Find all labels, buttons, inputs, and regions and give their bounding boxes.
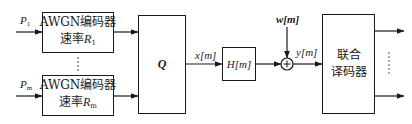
noise-label: w[m] [276,13,299,25]
x-signal-label: x[m] [195,49,216,61]
input-power-label-m: Pm [20,78,32,92]
joint-decoder-block: 联合 译码器 [322,14,375,114]
q-precoder-block: Q [138,15,186,114]
encoder-ellipsis-dots [77,57,79,71]
y-signal-label: y[m] [296,46,317,58]
channel-h-block: H[m] [222,47,256,81]
output-ellipsis-dots [388,52,389,73]
awgn-encoder-m: AWGN编码器 速率Rm [42,75,114,116]
awgn-encoder-1: AWGN编码器 速率R1 [42,12,114,53]
input-power-label-1: P1 [20,14,30,28]
